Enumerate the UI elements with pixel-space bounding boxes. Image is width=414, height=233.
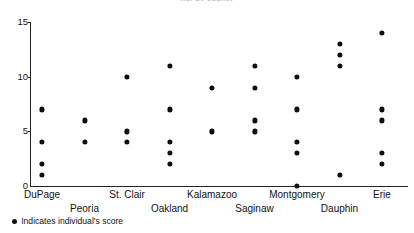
data-point: [39, 107, 44, 112]
x-axis-label-dupage: DuPage: [24, 190, 60, 200]
legend-label: Indicates individual's score: [21, 217, 123, 226]
data-point: [124, 140, 129, 145]
chart-screenshot: ng, by county 051015 DuPagePeoriaSt. Cla…: [0, 0, 414, 233]
data-point: [209, 129, 214, 134]
data-point: [124, 129, 129, 134]
x-axis-label-saginaw: Saginaw: [235, 204, 273, 214]
x-axis-label-peoria: Peoria: [70, 204, 99, 214]
legend: Indicates individual's score: [12, 217, 123, 226]
data-point: [167, 162, 172, 167]
data-point: [167, 140, 172, 145]
x-axis-label-kalamazoo: Kalamazoo: [187, 190, 237, 200]
data-point: [337, 52, 342, 57]
x-axis-label-montgomery: Montgomery: [269, 190, 325, 200]
data-point: [167, 107, 172, 112]
data-point: [294, 74, 299, 79]
data-point: [337, 172, 342, 177]
data-point: [294, 107, 299, 112]
x-axis-label-erie: Erie: [373, 190, 391, 200]
x-axis-label-dauphin: Dauphin: [321, 204, 358, 214]
data-point: [39, 140, 44, 145]
data-point: [252, 63, 257, 68]
x-axis-label-st-clair: St. Clair: [109, 190, 145, 200]
x-axis-line: [30, 186, 408, 187]
plot-area: [30, 22, 406, 186]
data-point: [337, 41, 342, 46]
data-point: [379, 151, 384, 156]
data-point: [337, 63, 342, 68]
data-point: [167, 63, 172, 68]
data-point: [124, 74, 129, 79]
y-axis-tick-label: 10: [17, 72, 28, 82]
data-point: [294, 151, 299, 156]
data-point: [252, 129, 257, 134]
data-point: [379, 107, 384, 112]
data-point: [167, 151, 172, 156]
filled-circle-icon: [12, 219, 17, 224]
data-point: [82, 118, 87, 123]
data-point: [209, 85, 214, 90]
data-point: [82, 140, 87, 145]
data-point: [379, 162, 384, 167]
data-point: [252, 85, 257, 90]
data-point: [39, 162, 44, 167]
data-point: [39, 172, 44, 177]
y-axis-tick-label: 15: [17, 17, 28, 27]
data-point: [379, 118, 384, 123]
data-point: [252, 118, 257, 123]
x-axis-label-oakland: Oakland: [151, 204, 188, 214]
data-point: [294, 140, 299, 145]
data-point: [379, 30, 384, 35]
data-point: [294, 183, 299, 188]
clipped-chart-title: ng, by county: [0, 0, 414, 1]
